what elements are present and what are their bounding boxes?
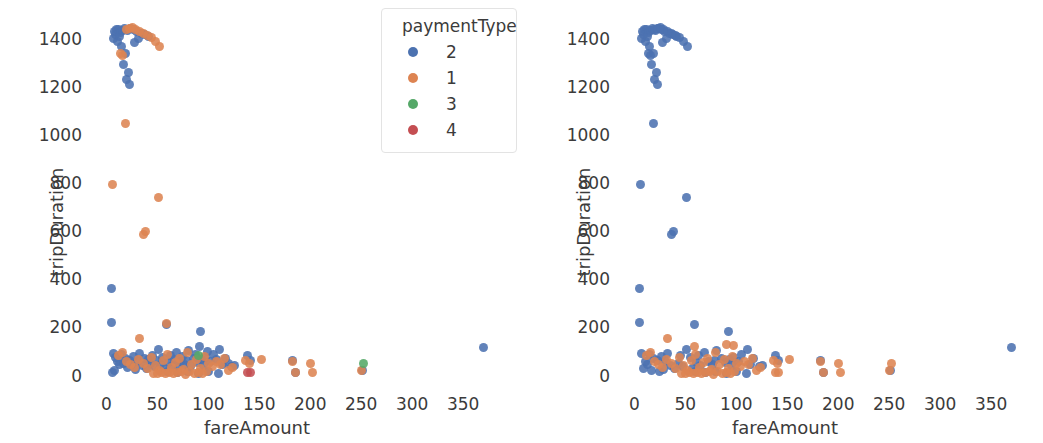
scatter-point [154,345,163,354]
scatter-point [139,230,148,239]
scatter-point [135,334,144,343]
scatter-point [635,284,644,293]
legend-item-label: 2 [446,42,457,62]
legend-item[interactable]: 1 [394,65,502,91]
scatter-point [649,119,658,128]
x-tick-label: 200 [822,396,854,413]
legend-swatch-dot-icon [408,47,418,57]
scatter-point [690,320,699,329]
x-tick-label: 200 [294,396,326,413]
legend-item[interactable]: 4 [394,117,502,143]
legend-item-label: 4 [446,120,457,140]
y-axis-ticks-right: 0200400600800100012001400 [521,0,610,443]
scatter-point [288,357,297,366]
x-tick-label: 350 [975,396,1007,413]
scatter-point [667,230,676,239]
y-tick-label: 1400 [39,30,82,47]
legend-item-label: 1 [446,68,457,88]
scatter-point [108,180,117,189]
y-tick-label: 1200 [39,79,82,96]
y-tick-label: 1200 [567,79,610,96]
legend-title-payment-type: paymentType [402,16,502,36]
scatter-point [154,193,163,202]
legend-swatch-dot-icon [408,99,418,109]
scatter-point [196,327,205,336]
x-axis-label-left: fareAmount [204,417,310,438]
x-tick-label: 150 [243,396,275,413]
scatter-point [774,368,783,377]
x-tick-label: 150 [771,396,803,413]
x-tick-label: 50 [146,396,168,413]
scatter-point [729,341,738,350]
scatter-point [663,334,672,343]
scatter-point [646,51,655,60]
scatter-point [245,359,254,368]
scatter-point [306,359,315,368]
x-tick-label: 300 [396,396,428,413]
scatter-point [107,318,116,327]
panel-payment-type: 0200400600800100012001400 tripDuration f… [0,0,521,443]
y-axis-ticks-left: 0200400600800100012001400 [0,0,82,443]
scatter-point [246,368,255,377]
x-tick-label: 50 [674,396,696,413]
scatter-point [214,369,223,378]
scatter-point [163,350,172,359]
scatter-point [662,34,671,43]
legend-swatch-dot-icon [408,73,418,83]
scatter-point [816,357,825,366]
scatter-point [834,359,843,368]
scatter-point [257,355,266,364]
scatter-point [479,343,488,352]
legend-item-label: 3 [446,94,457,114]
scatter-point [121,119,130,128]
x-tick-label: 250 [873,396,905,413]
scatter-point [743,345,752,354]
scatter-point [773,359,782,368]
scatter-point [653,80,662,89]
scatter-point [724,327,733,336]
y-tick-label: 200 [578,319,610,336]
scatter-point [194,351,203,360]
scatter-point [359,359,368,368]
scatter-point [887,359,896,368]
panel-vendor-id: 0200400600800100012001400 tripDuration f… [521,0,1042,443]
y-axis-label-right: tripDuration [573,167,594,276]
scatter-point [635,318,644,327]
legend-swatch-dot-icon [408,125,418,135]
scatter-point [682,193,691,202]
x-tick-label: 100 [192,396,224,413]
x-tick-label: 250 [345,396,377,413]
scatter-point [819,368,828,377]
x-tick-label: 100 [720,396,752,413]
y-tick-label: 1000 [39,127,82,144]
y-tick-label: 0 [71,367,82,384]
x-axis-label-right: fareAmount [732,417,838,438]
scatter-point [691,350,700,359]
legend-item[interactable]: 2 [394,39,502,65]
plot-area-right [616,12,1034,390]
y-axis-label-left: tripDuration [46,167,67,276]
scatter-point [108,368,117,377]
y-tick-label: 200 [50,319,82,336]
legend-payment-type[interactable]: paymentType 2134 [381,8,517,153]
scatter-point [683,42,692,51]
scatter-point [756,363,765,372]
scatter-point [785,355,794,364]
scatter-point [215,345,224,354]
legend-items-payment-type: 2134 [394,39,502,143]
scatter-point [118,51,127,60]
x-tick-label: 0 [629,396,640,413]
scatter-point [291,368,300,377]
scatter-point [742,369,751,378]
legend-item[interactable]: 3 [394,91,502,117]
y-tick-label: 0 [599,367,610,384]
y-tick-label: 1400 [567,30,610,47]
x-tick-label: 300 [924,396,956,413]
x-tick-label: 0 [101,396,112,413]
scatter-point [107,284,116,293]
scatter-figure: 0200400600800100012001400 tripDuration f… [0,0,1043,443]
y-tick-label: 1000 [567,127,610,144]
scatter-point [228,363,237,372]
scatter-point [1007,343,1016,352]
scatter-point [636,180,645,189]
